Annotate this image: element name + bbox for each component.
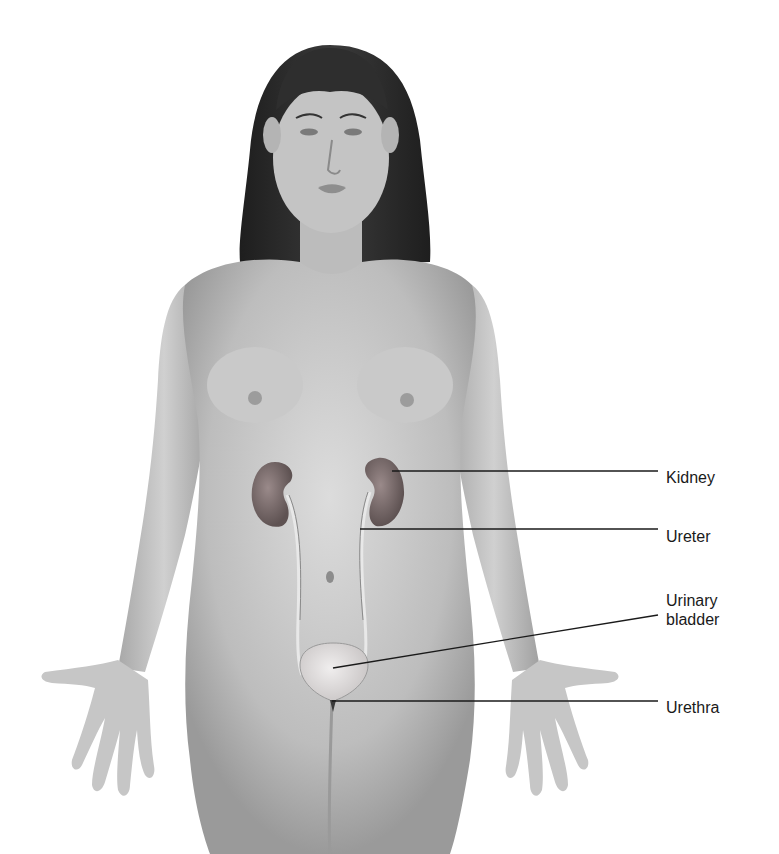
right-hand (506, 660, 619, 796)
right-breast (357, 347, 453, 423)
urinary-bladder-label-line2: bladder (666, 610, 756, 629)
kidney-label: Kidney (666, 468, 715, 487)
left-hand (41, 660, 154, 796)
urinary-bladder-label-line1: Urinary (666, 591, 756, 610)
anatomy-figure (0, 0, 779, 854)
ureter-label: Ureter (666, 527, 710, 546)
face (273, 83, 389, 233)
navel (326, 571, 334, 583)
left-breast (207, 347, 303, 423)
urinary-bladder-label: Urinary bladder (666, 591, 756, 629)
urethra-label: Urethra (666, 698, 719, 717)
